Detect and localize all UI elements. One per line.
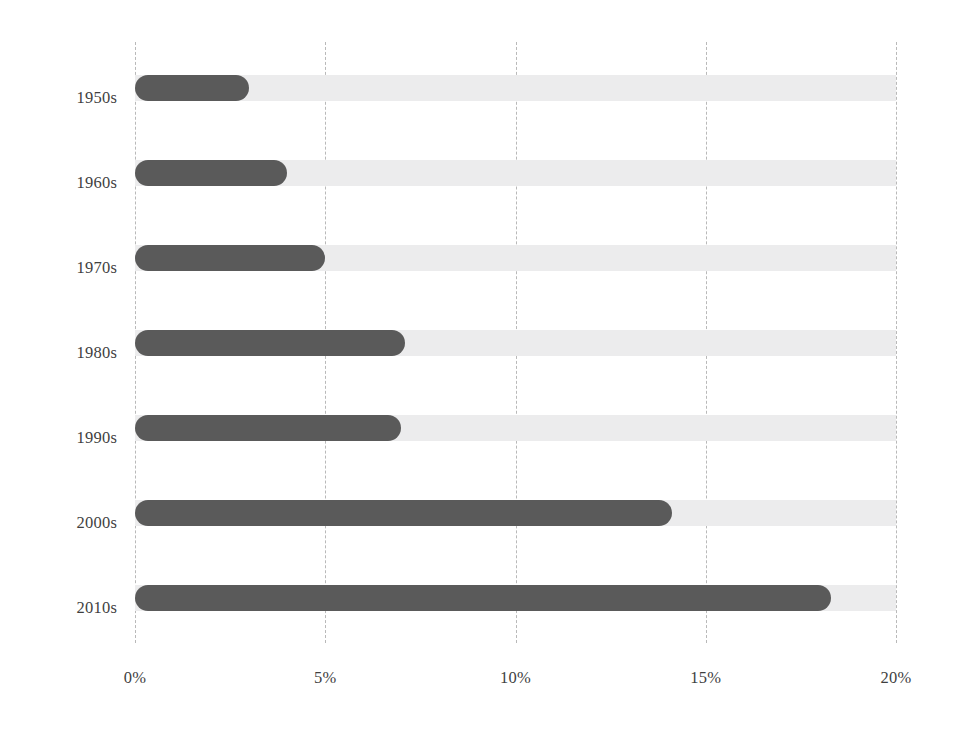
x-axis-tick-5: 5% xyxy=(314,668,336,688)
bar-value-2010s xyxy=(135,585,831,611)
bar-row-1990s xyxy=(135,415,896,441)
plot-area xyxy=(135,42,896,643)
bar-value-2000s xyxy=(135,500,672,526)
y-axis: 1950s 1960s 1970s 1980s 1990s 2000s 2010… xyxy=(0,42,117,643)
bar-row-1950s xyxy=(135,75,896,101)
bar-value-1960s xyxy=(135,160,287,186)
y-axis-label-5: 2000s xyxy=(7,513,117,533)
bar-row-1960s xyxy=(135,160,896,186)
bar-value-1980s xyxy=(135,330,405,356)
bar-chart: 1950s 1960s 1970s 1980s 1990s 2000s 2010… xyxy=(0,0,970,737)
x-axis-tick-15: 15% xyxy=(690,668,721,688)
x-axis: 0% 5% 10% 15% 20% xyxy=(135,668,896,698)
y-axis-label-6: 2010s xyxy=(7,598,117,618)
x-axis-tick-0: 0% xyxy=(124,668,146,688)
bar-track xyxy=(135,75,896,101)
bar-value-1950s xyxy=(135,75,249,101)
y-axis-label-4: 1990s xyxy=(7,428,117,448)
y-axis-label-1: 1960s xyxy=(7,173,117,193)
y-axis-label-0: 1950s xyxy=(7,88,117,108)
y-axis-label-2: 1970s xyxy=(7,258,117,278)
bar-row-1980s xyxy=(135,330,896,356)
x-axis-tick-10: 10% xyxy=(500,668,531,688)
bar-row-2010s xyxy=(135,585,896,611)
bar-value-1970s xyxy=(135,245,325,271)
bar-value-1990s xyxy=(135,415,401,441)
bar-row-2000s xyxy=(135,500,896,526)
bar-row-1970s xyxy=(135,245,896,271)
x-axis-tick-20: 20% xyxy=(881,668,912,688)
gridline-20 xyxy=(896,42,897,643)
y-axis-label-3: 1980s xyxy=(7,343,117,363)
